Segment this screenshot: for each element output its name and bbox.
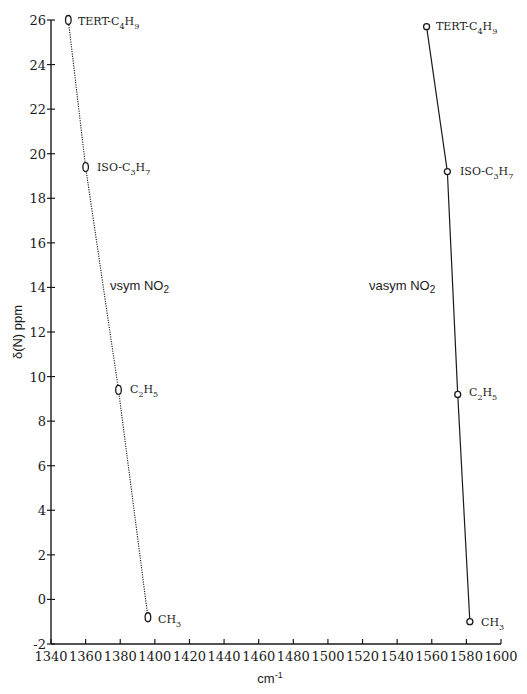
x-tick-label: 1380 — [104, 649, 137, 664]
y-tick-label: 22 — [29, 102, 46, 117]
y-axis-title: δ(N) ppm — [10, 305, 25, 359]
x-tick-label: 1440 — [208, 649, 241, 664]
x-tick-label: 1520 — [346, 649, 379, 664]
x-tick-label: 1560 — [415, 649, 448, 664]
x-tick-label: 1400 — [138, 649, 171, 664]
y-tick-label: 4 — [38, 503, 46, 518]
x-tick-label: 1480 — [277, 649, 310, 664]
series-line — [68, 20, 148, 617]
point-label-asym-iso: ISO-C3H7 — [460, 165, 513, 181]
series-line — [427, 27, 470, 622]
data-point-marker — [444, 169, 450, 175]
y-tick-label: 8 — [38, 414, 46, 429]
data-point-marker — [145, 613, 151, 622]
x-ticks: 1340136013801400142014401460148015001520… — [34, 639, 517, 664]
series-label-sym: νsym NO2 — [110, 278, 169, 295]
point-label-sym-ethyl: C2H5 — [130, 383, 158, 399]
x-axis-title: cm-1 — [257, 670, 282, 686]
series-label-asym: νasym NO2 — [369, 278, 436, 295]
point-labels: TERT-C4H9 ISO-C3H7 C2H5 CH3 TERT-C4H9 IS… — [78, 15, 513, 632]
axes: 1340136013801400142014401460148015001520… — [29, 13, 517, 664]
y-tick-label: 2 — [38, 548, 46, 563]
y-tick-label: -2 — [33, 637, 46, 652]
data-point-marker — [424, 24, 430, 30]
series-asym-no2 — [424, 24, 473, 625]
series-sym-no2 — [66, 16, 151, 622]
y-tick-label: 0 — [38, 592, 46, 607]
y-tick-label: 18 — [29, 191, 46, 206]
data-point-marker — [116, 385, 122, 394]
x-tick-label: 1540 — [381, 649, 414, 664]
y-tick-label: 16 — [29, 236, 46, 251]
point-label-sym-methyl: CH3 — [158, 613, 181, 629]
x-tick-label: 1500 — [311, 649, 344, 664]
y-tick-label: 10 — [29, 370, 46, 385]
y-tick-label: 14 — [29, 280, 46, 295]
data-point-marker — [455, 391, 461, 397]
x-tick-label: 1460 — [242, 649, 275, 664]
y-tick-label: 6 — [38, 459, 46, 474]
x-tick-label: 1600 — [484, 649, 517, 664]
y-tick-label: 24 — [29, 58, 46, 73]
data-point-marker — [66, 16, 72, 25]
point-label-asym-methyl: CH3 — [481, 616, 504, 632]
point-label-sym-tert: TERT-C4H9 — [78, 15, 139, 31]
x-tick-label: 1420 — [173, 649, 206, 664]
data-point-marker — [83, 163, 89, 172]
y-tick-label: 26 — [29, 13, 46, 28]
x-tick-label: 1360 — [69, 649, 102, 664]
point-label-sym-iso: ISO-C3H7 — [97, 161, 150, 177]
y-tick-label: 20 — [29, 147, 46, 162]
point-label-asym-ethyl: C2H5 — [469, 386, 497, 402]
x-tick-label: 1580 — [450, 649, 483, 664]
chart: 1340136013801400142014401460148015001520… — [0, 0, 527, 694]
data-point-marker — [467, 619, 473, 625]
point-label-asym-tert: TERT-C4H9 — [436, 20, 497, 36]
y-tick-label: 12 — [29, 325, 46, 340]
